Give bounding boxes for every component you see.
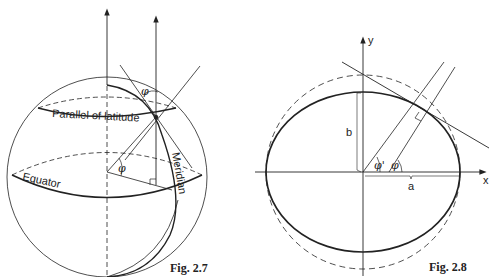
phi-center-label: φ — [118, 162, 126, 175]
radius-equator — [107, 172, 172, 190]
phi-top-label: φ — [141, 85, 149, 98]
figure-caption-2-8: Fig. 2.8 — [429, 260, 467, 274]
y-axis-label: y — [368, 34, 374, 46]
geocentric-line — [363, 62, 444, 172]
radius-to-point — [107, 117, 156, 172]
phi-label-2: φ — [391, 159, 399, 172]
diagram-canvas: Parallel of latitude Equator Meridian φ … — [0, 0, 494, 277]
figure-2-8 — [255, 40, 489, 276]
parallel-label: Parallel of latitude — [52, 107, 140, 124]
b-label: b — [346, 126, 352, 138]
x-axis-label: x — [483, 174, 489, 186]
meridian-back — [107, 200, 178, 277]
a-label: a — [408, 180, 415, 192]
figure-2-7 — [7, 12, 207, 277]
b-dimension — [357, 93, 361, 172]
a-dimension — [365, 176, 459, 179]
figure-caption-2-7: Fig. 2.7 — [170, 261, 208, 275]
point-p — [154, 115, 158, 119]
normal-line-2 — [389, 67, 455, 172]
phi-prime-label: φ' — [374, 159, 385, 172]
right-angle-mark-2 — [415, 112, 421, 121]
tangent-line-2 — [342, 62, 489, 148]
